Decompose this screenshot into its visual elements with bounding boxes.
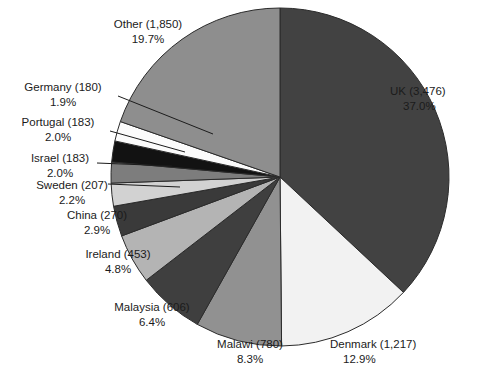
slice-label-name-germany: Germany (180) <box>24 81 102 93</box>
pie-slices-group <box>111 8 449 346</box>
slice-label-name-other: Other (1,850) <box>114 18 183 30</box>
slice-label-name-portugal: Portugal (183) <box>22 116 95 128</box>
slice-label-percent-portugal: 2.0% <box>45 131 71 143</box>
slice-label-percent-denmark: 12.9% <box>343 353 376 365</box>
slice-label-other: Other (1,850)19.7% <box>114 18 183 45</box>
slice-label-portugal: Portugal (183)2.0% <box>22 116 95 143</box>
slice-label-israel: Israel (183)2.0% <box>31 152 89 179</box>
pie-chart: UK (3,476)37.0%Denmark (1,217)12.9%Malaw… <box>0 0 497 376</box>
slice-label-percent-israel: 2.0% <box>47 167 73 179</box>
slice-label-name-china: China (270) <box>67 209 127 221</box>
slice-label-name-sweden: Sweden (207) <box>36 179 108 191</box>
slice-label-percent-sweden: 2.2% <box>59 194 85 206</box>
slice-label-percent-other: 19.7% <box>132 33 165 45</box>
slice-label-sweden: Sweden (207)2.2% <box>36 179 108 206</box>
slice-label-percent-malawi: 8.3% <box>237 353 263 365</box>
slice-label-name-uk: UK (3,476) <box>390 85 446 97</box>
slice-label-name-malawi: Malawi (780) <box>217 338 283 350</box>
slice-label-denmark: Denmark (1,217)12.9% <box>330 338 416 365</box>
slice-label-name-denmark: Denmark (1,217) <box>330 338 416 350</box>
slice-label-malaysia: Malaysia (606)6.4% <box>114 301 190 328</box>
slice-label-name-ireland: Ireland (453) <box>85 248 150 260</box>
slice-label-percent-uk: 37.0% <box>403 100 436 112</box>
pie-chart-page: UK (3,476)37.0%Denmark (1,217)12.9%Malaw… <box>0 0 497 376</box>
slice-label-name-malaysia: Malaysia (606) <box>114 301 190 313</box>
slice-label-germany: Germany (180)1.9% <box>24 81 102 108</box>
slice-label-percent-germany: 1.9% <box>50 96 76 108</box>
slice-label-name-israel: Israel (183) <box>31 152 89 164</box>
slice-label-percent-china: 2.9% <box>84 224 110 236</box>
slice-label-percent-ireland: 4.8% <box>105 263 131 275</box>
slice-label-percent-malaysia: 6.4% <box>139 316 165 328</box>
slice-label-malawi: Malawi (780)8.3% <box>217 338 283 365</box>
